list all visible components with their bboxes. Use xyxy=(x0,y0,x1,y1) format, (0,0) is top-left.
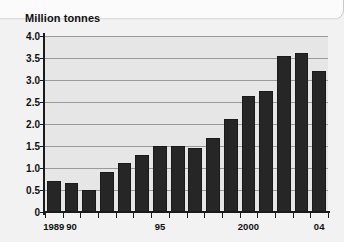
x-tick-mark xyxy=(187,213,188,218)
x-tick-mark xyxy=(45,213,46,218)
x-tick-label: 2000 xyxy=(238,221,259,232)
x-tick-mark xyxy=(151,213,152,218)
x-tick-mark xyxy=(222,213,223,218)
x-tick-mark xyxy=(293,213,294,218)
x-tick-mark xyxy=(257,213,258,218)
x-tick-label: 95 xyxy=(155,221,166,232)
x-tick-mark xyxy=(133,213,134,218)
x-tick-mark xyxy=(275,213,276,218)
x-tick-mark xyxy=(80,213,81,218)
y-tick-mark xyxy=(40,168,45,169)
x-tick-mark xyxy=(116,213,117,218)
x-tick-label: 1989 xyxy=(43,221,64,232)
y-tick-mark xyxy=(40,58,45,59)
y-tick-mark xyxy=(40,212,45,213)
x-tick-mark xyxy=(310,213,311,218)
y-tick-mark xyxy=(40,146,45,147)
y-tick-mark xyxy=(40,36,45,37)
x-tick-mark xyxy=(169,213,170,218)
y-tick-mark xyxy=(40,124,45,125)
x-tick-mark xyxy=(328,213,329,218)
y-tick-mark xyxy=(40,190,45,191)
x-tick-mark xyxy=(63,213,64,218)
x-tick-mark xyxy=(204,213,205,218)
x-tick-mark xyxy=(240,213,241,218)
x-tick-mark xyxy=(98,213,99,218)
x-tick-label: 90 xyxy=(66,221,77,232)
y-tick-mark xyxy=(40,102,45,103)
x-tick-label: 04 xyxy=(314,221,325,232)
y-tick-mark xyxy=(40,80,45,81)
